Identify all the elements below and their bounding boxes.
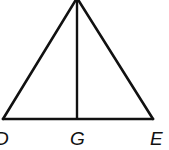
label-g: G — [70, 128, 85, 149]
label-d: D — [0, 128, 9, 149]
side-apex-e — [77, 0, 153, 119]
triangle-diagram: D G E — [0, 0, 169, 150]
side-apex-d — [3, 0, 77, 119]
label-e: E — [150, 128, 163, 149]
